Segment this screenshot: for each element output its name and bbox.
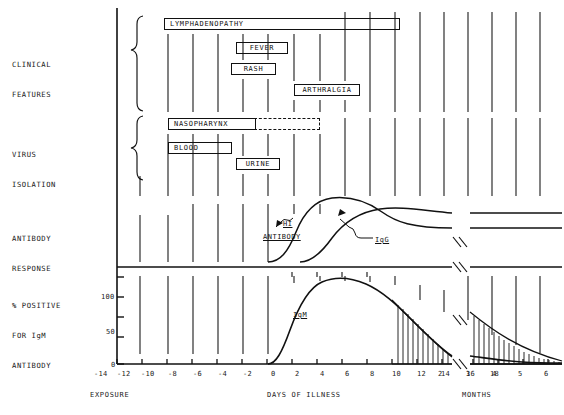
brace-clinical-features (131, 16, 143, 111)
arrowhead-igg (338, 209, 346, 216)
brace-virus-isolation (131, 116, 143, 180)
curve-igm (268, 278, 452, 364)
y-axis-ticks (117, 277, 124, 364)
grid-lines-antibody (140, 204, 320, 262)
grid-lines-upper (168, 12, 540, 112)
leader-igg (340, 219, 373, 238)
curve-igg (300, 208, 452, 262)
figure-canvas: CLINICAL FEATURES VIRUS ISOLATION ANTIBO… (0, 0, 564, 415)
percent-panel-top-ticks (292, 272, 367, 277)
axis-break-marks (453, 237, 467, 369)
figure-vector-layer (0, 0, 564, 415)
grid-lines-virus (140, 118, 540, 196)
grid-lines-percent (140, 276, 540, 354)
curve-hi-antibody (268, 198, 452, 262)
